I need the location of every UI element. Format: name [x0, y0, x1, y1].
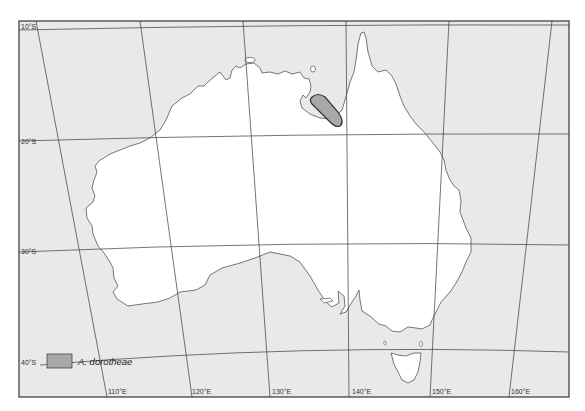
lat-label-10s: 10°S — [21, 23, 37, 30]
melville-island — [245, 58, 255, 63]
lat-label-30s: 30°S — [21, 248, 37, 255]
groote-eylandt — [311, 66, 316, 72]
flinders-island — [420, 342, 423, 347]
legend-species-label: A. dorotheae — [77, 356, 132, 367]
distribution-map: 10°S 20°S 30°S 40°S 110°E 120°E 130°E 14… — [0, 0, 585, 411]
lat-label-20s: 20°S — [21, 138, 37, 145]
lon-label-150e: 150°E — [432, 388, 451, 395]
lat-label-40s: 40°S — [21, 359, 37, 366]
lon-label-120e: 120°E — [192, 388, 211, 395]
legend-swatch — [47, 354, 72, 368]
lon-label-130e: 130°E — [272, 388, 291, 395]
king-island — [384, 341, 386, 345]
lon-label-160e: 160°E — [511, 388, 530, 395]
lon-label-110e: 110°E — [108, 388, 127, 395]
legend: A. dorotheae — [47, 354, 132, 368]
lon-label-140e: 140°E — [352, 388, 371, 395]
